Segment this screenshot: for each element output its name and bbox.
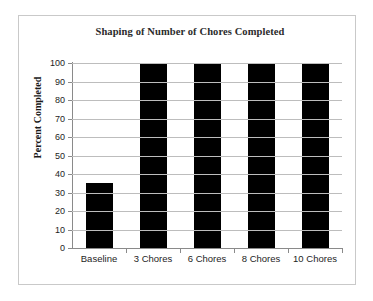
x-axis-line <box>72 248 343 249</box>
y-tick-label: 50 <box>55 151 65 161</box>
gridline <box>72 211 342 212</box>
y-tick-mark <box>68 100 72 101</box>
y-tick-label: 0 <box>60 243 65 253</box>
x-axis-tick-labels: Baseline3 Chores6 Chores8 Chores10 Chore… <box>72 253 342 269</box>
y-tick-mark <box>68 137 72 138</box>
y-tick-mark <box>68 63 72 64</box>
gridline <box>72 100 342 101</box>
x-tick-label: 8 Chores <box>234 253 288 264</box>
x-tick-mark <box>342 248 343 253</box>
gridline <box>72 230 342 231</box>
x-tick-label: Baseline <box>72 253 126 264</box>
y-tick-mark <box>68 248 72 249</box>
y-tick-mark <box>68 119 72 120</box>
gridline <box>72 156 342 157</box>
y-tick-label: 70 <box>55 114 65 124</box>
y-tick-mark <box>68 156 72 157</box>
y-tick-label: 40 <box>55 169 65 179</box>
y-tick-label: 30 <box>55 188 65 198</box>
gridline <box>72 174 342 175</box>
x-tick-label: 6 Chores <box>180 253 234 264</box>
y-tick-mark <box>68 82 72 83</box>
y-tick-label: 100 <box>50 58 65 68</box>
gridline <box>72 63 342 64</box>
gridline <box>72 137 342 138</box>
y-tick-label: 20 <box>55 206 65 216</box>
gridline <box>72 82 342 83</box>
y-tick-label: 60 <box>55 132 65 142</box>
y-tick-mark <box>68 193 72 194</box>
y-tick-label: 80 <box>55 95 65 105</box>
plot-area: 0102030405060708090100 <box>72 63 342 248</box>
y-tick-mark <box>68 174 72 175</box>
y-tick-label: 90 <box>55 77 65 87</box>
chart-title: Shaping of Number of Chores Completed <box>40 26 340 37</box>
x-tick-label: 10 Chores <box>288 253 342 264</box>
gridline <box>72 193 342 194</box>
y-tick-mark <box>68 230 72 231</box>
chart-screenshot: Shaping of Number of Chores Completed Pe… <box>0 0 373 301</box>
y-tick-label: 10 <box>55 225 65 235</box>
y-axis-title: Percent Completed <box>32 63 43 173</box>
x-tick-label: 3 Chores <box>126 253 180 264</box>
y-tick-mark <box>68 211 72 212</box>
gridline <box>72 119 342 120</box>
